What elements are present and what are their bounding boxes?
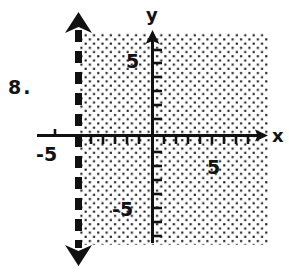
coordinate-plane-graph — [0, 0, 289, 278]
x-axis-tick-label-negative-5: -5 — [36, 145, 57, 164]
x-axis-label: x — [272, 127, 284, 145]
y-axis-label: y — [146, 6, 158, 24]
y-axis-tick-label-negative-5: -5 — [112, 200, 133, 219]
solution-region-shading — [79, 33, 268, 245]
x-axis-tick-label-positive-5: 5 — [207, 158, 220, 177]
y-axis-tick-label-positive-5: 5 — [126, 52, 139, 71]
